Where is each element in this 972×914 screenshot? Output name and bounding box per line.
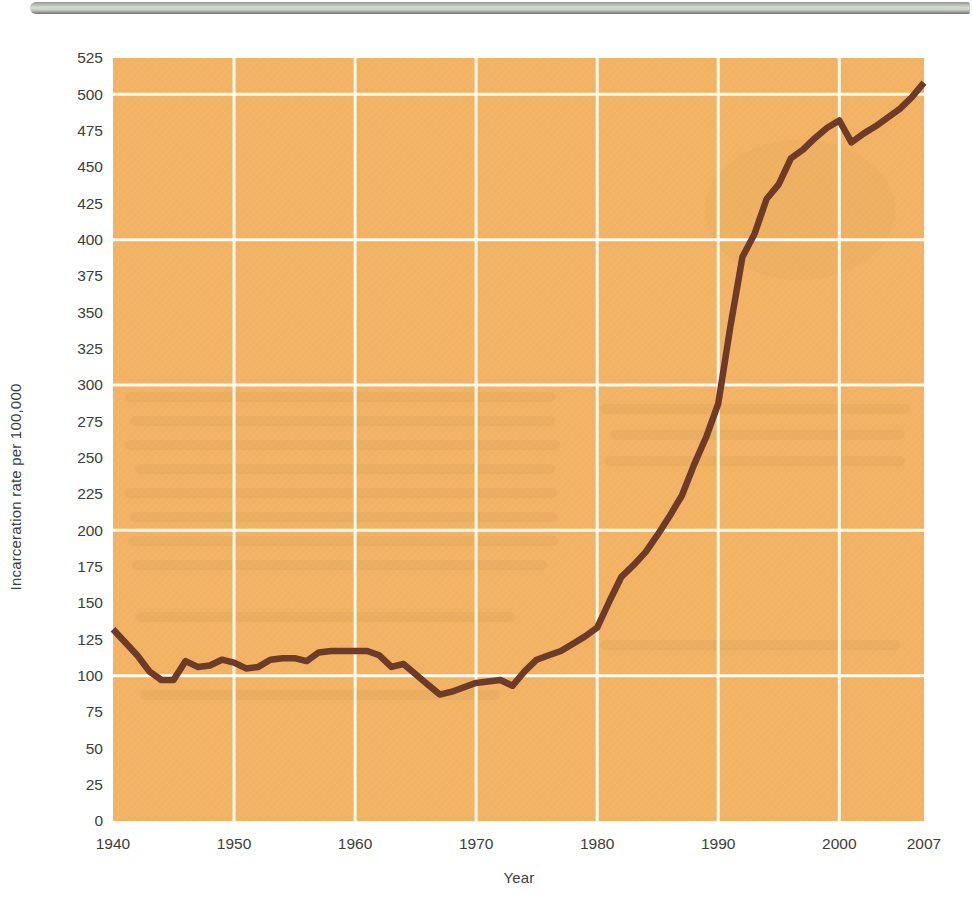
scan-artifact [135, 464, 555, 474]
y-tick-label: 25 [86, 776, 103, 793]
x-tick-label: 2000 [822, 835, 857, 852]
scan-artifact [135, 612, 515, 622]
scan-artifact [125, 392, 555, 402]
x-tick-label: 1950 [217, 835, 252, 852]
x-tick-label: 1970 [459, 835, 494, 852]
x-axis-title: Year [459, 869, 579, 887]
y-tick-label: 250 [77, 449, 103, 466]
y-tick-label: 425 [77, 195, 103, 212]
x-tick-label: 1980 [580, 835, 615, 852]
y-axis-title: Incarceration rate per 100,000 [7, 357, 25, 617]
y-tick-label: 450 [77, 158, 103, 175]
scan-artifact [705, 140, 895, 280]
y-tick-label: 375 [77, 267, 103, 284]
y-tick-label: 275 [77, 413, 103, 430]
y-tick-label: 150 [77, 594, 103, 611]
y-tick-label: 0 [94, 812, 103, 829]
scan-artifact [125, 488, 557, 498]
y-tick-label: 400 [77, 231, 103, 248]
x-tick-label: 2007 [907, 835, 941, 852]
incarceration-rate-chart: 5255004754504254003753503253002752502252… [0, 0, 972, 914]
y-tick-label: 200 [77, 522, 103, 539]
scan-artifact [128, 536, 558, 546]
scan-artifact [130, 512, 558, 522]
y-tick-label: 525 [77, 49, 103, 66]
x-tick-label: 1990 [701, 835, 736, 852]
y-tick-label: 350 [77, 304, 103, 321]
y-tick-label: 50 [86, 740, 104, 757]
scan-artifact [130, 416, 555, 426]
scan-artifact [132, 560, 547, 570]
scan-artifact [605, 456, 905, 466]
scan-artifact [610, 430, 905, 440]
y-tick-label: 100 [77, 667, 103, 684]
y-tick-label: 475 [77, 122, 103, 139]
x-tick-label: 1940 [96, 835, 131, 852]
y-tick-label: 125 [77, 631, 103, 648]
scan-artifact [125, 440, 560, 450]
y-tick-label: 225 [77, 485, 103, 502]
scanned-page: 5255004754504254003753503253002752502252… [0, 0, 972, 914]
y-tick-label: 300 [77, 376, 103, 393]
y-tick-label: 500 [77, 86, 103, 103]
scan-artifact [600, 640, 900, 650]
x-tick-label: 1960 [338, 835, 373, 852]
y-tick-label: 75 [86, 703, 103, 720]
y-tick-label: 175 [77, 558, 103, 575]
y-tick-label: 325 [77, 340, 103, 357]
scan-artifact [600, 404, 910, 414]
